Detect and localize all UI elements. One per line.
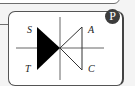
solid-triangle-icon bbox=[37, 27, 60, 70]
badge-p: P bbox=[105, 9, 120, 24]
label-s: S bbox=[27, 24, 32, 35]
label-c: C bbox=[88, 63, 95, 74]
label-t: T bbox=[25, 63, 32, 74]
label-a: A bbox=[87, 24, 95, 35]
